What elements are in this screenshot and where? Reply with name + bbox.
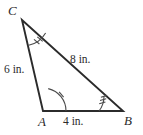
angle-mark-b bbox=[99, 95, 107, 111]
triangle-outline bbox=[22, 20, 123, 111]
vertex-label-b: B bbox=[124, 114, 132, 127]
vertex-label-c: C bbox=[8, 4, 17, 17]
angle-tick-b-1 bbox=[99, 102, 105, 104]
vertex-label-a: A bbox=[38, 115, 46, 128]
angle-tick-b-2 bbox=[100, 99, 106, 101]
side-label-ab: 4 in. bbox=[63, 116, 83, 128]
angle-mark-a bbox=[48, 89, 66, 111]
side-label-ca: 6 in. bbox=[4, 64, 24, 76]
triangle-figure: C A B 6 in. 8 in. 4 in. bbox=[0, 0, 143, 135]
side-label-cb: 8 in. bbox=[70, 54, 90, 66]
angle-arc-a bbox=[48, 89, 66, 111]
